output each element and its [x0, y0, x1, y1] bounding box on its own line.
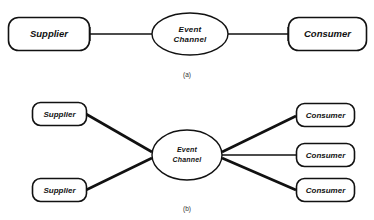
node-consumer-a[interactable]: Consumer	[289, 18, 367, 51]
node-consumer-b-1-label: Consumer	[306, 111, 346, 120]
connector-supplier-2-to-channel-b	[86, 158, 152, 190]
panel-a-caption: (a)	[183, 71, 191, 79]
node-supplier-b-2-label: Supplier	[43, 186, 76, 195]
connector-supplier-1-to-channel-b	[86, 114, 152, 152]
connector-channel-to-consumer-1-b	[222, 116, 296, 152]
node-consumer-b-3-label: Consumer	[306, 186, 346, 195]
node-event-channel-b-line2: Channel	[172, 156, 202, 163]
node-consumer-b-2[interactable]: Consumer	[297, 144, 355, 167]
node-supplier-b-1-label: Supplier	[43, 110, 76, 119]
panel-a: Supplier Event Channel Consumer (a)	[9, 13, 367, 79]
node-event-channel-a-line1: Event	[179, 25, 202, 34]
panel-b-caption: (b)	[183, 205, 191, 213]
connector-supplier-to-channel-a	[90, 27, 152, 41]
node-event-channel-b-line1: Event	[177, 146, 198, 153]
node-supplier-a[interactable]: Supplier	[9, 18, 90, 51]
connector-channel-to-consumer-3-b	[222, 158, 296, 190]
node-supplier-b-1[interactable]: Supplier	[33, 103, 87, 126]
node-event-channel-a-line2: Channel	[174, 35, 208, 44]
node-consumer-b-3[interactable]: Consumer	[297, 179, 355, 202]
connector-channel-to-consumer-a	[228, 27, 288, 41]
panel-b: Supplier Supplier Event Channel Consumer…	[33, 103, 355, 214]
node-event-channel-b[interactable]: Event Channel	[152, 130, 222, 180]
node-consumer-b-1[interactable]: Consumer	[297, 104, 355, 127]
node-consumer-b-2-label: Consumer	[306, 151, 346, 160]
node-event-channel-a[interactable]: Event Channel	[152, 13, 228, 55]
node-consumer-a-label: Consumer	[304, 28, 352, 39]
node-supplier-b-2[interactable]: Supplier	[33, 179, 87, 202]
event-channel-figure: Supplier Event Channel Consumer (a)	[0, 0, 374, 220]
node-supplier-a-label: Supplier	[30, 28, 69, 39]
